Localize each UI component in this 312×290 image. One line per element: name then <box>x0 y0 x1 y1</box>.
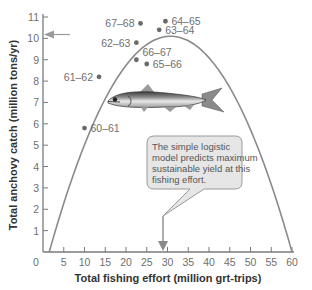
x-tick-label: 20 <box>120 256 132 268</box>
data-points: 60–6161–6262–6363–6464–6565–6666–6767–68 <box>64 15 201 134</box>
x-tick-label: 40 <box>203 256 215 268</box>
y-tick-label: 2 <box>33 203 39 215</box>
x-tick-label: 10 <box>79 256 91 268</box>
y-tick-label: 6 <box>33 118 39 130</box>
data-point: 67–68 <box>105 17 143 29</box>
callout-line-3: sustainable yield at this <box>152 163 250 174</box>
x-tick-label: 30 <box>162 256 174 268</box>
y-tick-label: 8 <box>33 75 39 87</box>
callout-line-4: fishing effort. <box>152 174 206 185</box>
y-tick-label: 10 <box>27 32 39 44</box>
y-axis-ticks: 1234567891011 <box>27 11 48 237</box>
x-tick-label: 25 <box>141 256 153 268</box>
callout-line-2: model predicts maximum <box>152 152 258 163</box>
data-point: 65–66 <box>144 58 182 70</box>
anchovy-fish-icon <box>108 84 224 112</box>
x-tick-label: 60 <box>286 256 298 268</box>
data-point-label: 61–62 <box>64 71 93 83</box>
data-point: 60–61 <box>82 122 120 134</box>
data-point-label: 67–68 <box>105 17 134 29</box>
data-point-label: 62–63 <box>101 37 130 49</box>
callout-line-1: The simple logistic <box>152 141 230 152</box>
x-tick-label: 15 <box>99 256 111 268</box>
data-point-label: 60–61 <box>91 122 120 134</box>
x-tick-label: 35 <box>182 256 194 268</box>
x-axis-title: Total fishing effort (million grt-trips) <box>75 272 262 284</box>
anchovy-catch-chart: 1234567891011 51015202530354045505560 Th… <box>0 0 312 290</box>
y-axis-title: Total anchovy catch (million tons/yr) <box>7 39 19 230</box>
data-point-label: 65–66 <box>153 58 182 70</box>
y-tick-label: 5 <box>33 139 39 151</box>
y-tick-label: 1 <box>33 225 39 237</box>
msy-yield-arrow <box>44 31 70 39</box>
x-tick-label: 5 <box>61 256 67 268</box>
y-tick-label: 4 <box>33 161 39 173</box>
y-tick-label: 3 <box>33 182 39 194</box>
y-tick-label: 11 <box>28 11 39 23</box>
msy-callout: The simple logistic model predicts maxim… <box>147 136 258 216</box>
data-point-label: 64–65 <box>171 15 200 27</box>
origin-label: 0 <box>33 256 39 268</box>
data-point-label: 66–67 <box>142 46 171 58</box>
msy-effort-arrow <box>158 216 168 251</box>
x-tick-label: 55 <box>265 256 277 268</box>
x-axis-ticks: 51015202530354045505560 <box>61 247 298 268</box>
y-tick-label: 9 <box>33 54 39 66</box>
x-tick-label: 50 <box>245 256 257 268</box>
y-tick-label: 7 <box>33 96 39 108</box>
x-tick-label: 45 <box>224 256 236 268</box>
data-point: 61–62 <box>64 71 102 83</box>
data-point: 62–63 <box>101 37 139 49</box>
